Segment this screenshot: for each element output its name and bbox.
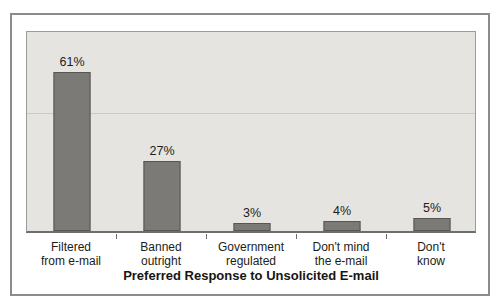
category-label-2: Governmentregulated (206, 241, 296, 268)
bar-slot-1: 27% (117, 32, 207, 231)
category-label-line: the e-mail (296, 255, 386, 269)
value-label-1: 27% (117, 144, 207, 158)
value-label-3: 4% (297, 204, 387, 218)
category-label-line: outright (116, 255, 206, 269)
bar-4 (414, 218, 451, 231)
chart-outer-frame: 61%27%3%4%5% Filteredfrom e-mailBannedou… (10, 13, 490, 296)
axis-tick-1 (116, 234, 117, 239)
category-label-line: know (386, 255, 476, 269)
category-label-0: Filteredfrom e-mail (26, 241, 116, 268)
category-label-line: Filtered (26, 241, 116, 255)
category-label-line: Don't mind (296, 241, 386, 255)
category-label-line: Don't (386, 241, 476, 255)
bar-slot-2: 3% (207, 32, 297, 231)
chart-title: Preferred Response to Unsolicited E-mail (26, 268, 476, 283)
bar-slot-3: 4% (297, 32, 387, 231)
bar-0 (54, 72, 91, 231)
category-label-4: Don'tknow (386, 241, 476, 268)
category-label-line: Government (206, 241, 296, 255)
value-label-4: 5% (387, 201, 477, 215)
axis-tick-4 (386, 234, 387, 239)
category-label-line: regulated (206, 255, 296, 269)
category-label-line: from e-mail (26, 255, 116, 269)
plot-area: 61%27%3%4%5% (26, 31, 476, 233)
value-label-0: 61% (27, 55, 117, 69)
category-label-line: Banned (116, 241, 206, 255)
category-label-1: Bannedoutright (116, 241, 206, 268)
category-label-3: Don't mindthe e-mail (296, 241, 386, 268)
value-label-2: 3% (207, 206, 297, 220)
bar-slot-4: 5% (387, 32, 477, 231)
figure-page: 61%27%3%4%5% Filteredfrom e-mailBannedou… (0, 0, 499, 307)
bar-slot-0: 61% (27, 32, 117, 231)
axis-tick-2 (206, 234, 207, 239)
bar-3 (324, 221, 361, 231)
bar-1 (144, 161, 181, 231)
bar-2 (234, 223, 271, 231)
axis-tick-3 (296, 234, 297, 239)
